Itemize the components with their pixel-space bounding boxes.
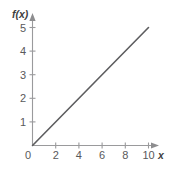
x-axis-label: x (157, 149, 165, 161)
graph-figure: 1 2 3 4 5 0 2 4 6 8 10 f(x) x (0, 0, 174, 173)
x-tick-label-8: 8 (122, 149, 128, 161)
x-tick-label-2: 2 (53, 149, 59, 161)
y-tick-label-2: 2 (20, 92, 26, 104)
y-tick-label-4: 4 (20, 45, 26, 57)
y-axis-label: f(x) (12, 8, 29, 20)
y-tick-label-1: 1 (20, 116, 26, 128)
line-chart: 1 2 3 4 5 0 2 4 6 8 10 f(x) x (0, 0, 174, 173)
y-tick-label-5: 5 (20, 22, 26, 34)
y-tick-label-3: 3 (20, 69, 26, 81)
y-axis-arrow-icon (29, 13, 35, 21)
x-tick-label-10: 10 (142, 149, 154, 161)
origin-label: 0 (25, 149, 31, 161)
x-axis-arrow-icon (151, 142, 159, 148)
data-series-line (33, 28, 149, 146)
x-tick-label-6: 6 (99, 149, 105, 161)
x-tick-label-4: 4 (76, 149, 82, 161)
